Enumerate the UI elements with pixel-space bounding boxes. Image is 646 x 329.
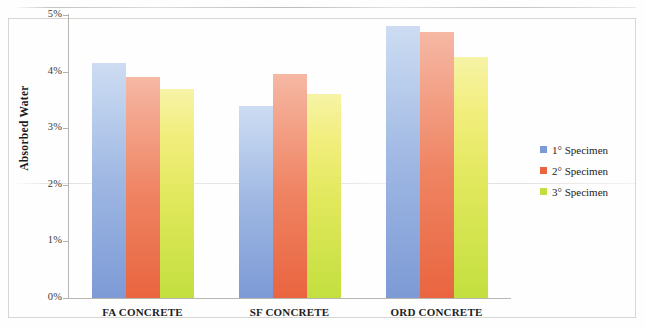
x-category-label: FA CONCRETE <box>69 306 216 318</box>
chart-legend: 1° Specimen2° Specimen3° Specimen <box>540 139 640 202</box>
bar <box>307 94 341 298</box>
y-tick-label: 3% <box>28 121 62 132</box>
bar <box>92 63 126 298</box>
y-tick-label: 1% <box>28 234 62 245</box>
plot-area <box>69 15 510 298</box>
scan-artifact-line-top <box>14 7 636 8</box>
bar <box>454 57 488 298</box>
legend-swatch-icon <box>540 146 547 153</box>
legend-item: 1° Specimen <box>540 139 640 160</box>
legend-item: 3° Specimen <box>540 181 640 202</box>
bar <box>386 26 420 298</box>
bar <box>160 89 194 298</box>
bar <box>239 106 273 298</box>
bar <box>420 32 454 298</box>
x-category-label: SF CONCRETE <box>216 306 363 318</box>
y-tick-label: 4% <box>28 65 62 76</box>
x-category-label: ORD CONCRETE <box>363 306 510 318</box>
legend-swatch-icon <box>540 188 547 195</box>
y-tick-label: 5% <box>28 8 62 19</box>
legend-label: 3° Specimen <box>552 186 608 198</box>
bar <box>273 74 307 298</box>
chart-container: Absorbed Water 0%1%2%3%4%5% FA CONCRETES… <box>0 0 646 329</box>
y-axis-tick-labels: 0%1%2%3%4%5% <box>24 0 62 329</box>
y-tick-label: 2% <box>28 178 62 189</box>
x-axis-line <box>68 298 511 299</box>
bar <box>126 77 160 298</box>
legend-item: 2° Specimen <box>540 160 640 181</box>
y-tick-label: 0% <box>28 291 62 302</box>
legend-label: 1° Specimen <box>552 144 608 156</box>
legend-label: 2° Specimen <box>552 165 608 177</box>
legend-swatch-icon <box>540 167 547 174</box>
